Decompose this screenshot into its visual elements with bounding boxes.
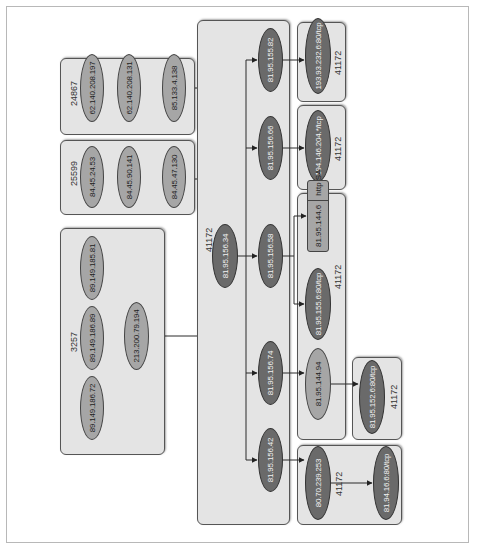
node-85-133-4-138[interactable]: 85.133.4.138 bbox=[162, 54, 186, 122]
node-81-95-152-6[interactable]: 81.95.152.6:80/tcp bbox=[359, 360, 385, 434]
node-81-95-156-58[interactable]: 81.95.156.58 bbox=[258, 224, 283, 288]
node-62-140-208-131[interactable]: 62.140.208.131 bbox=[117, 54, 141, 122]
as-label: 25599 bbox=[69, 161, 79, 186]
node-89-149-186-72[interactable]: 89.149.186.72 bbox=[80, 376, 104, 440]
node-flag: http SA bbox=[308, 165, 328, 200]
as-label: 3257 bbox=[69, 332, 79, 352]
node-213-200-79-194[interactable]: 213.200.79.194 bbox=[124, 302, 149, 370]
as-label: 41172 bbox=[334, 472, 344, 496]
node-81-95-155-82[interactable]: 81.95.155.82 bbox=[258, 28, 283, 92]
node-84-45-24-53[interactable]: 84.45.24.53 bbox=[80, 146, 104, 208]
as-label: 24867 bbox=[69, 81, 79, 106]
network-diagram: 24867 25599 3257 41172 41172 41172 41172… bbox=[0, 0, 477, 550]
node-81-95-156-66[interactable]: 81.95.156.66 bbox=[258, 116, 283, 180]
node-84-45-47-130[interactable]: 84.45.47.130 bbox=[162, 146, 186, 208]
node-81-95-155-6[interactable]: 81.95.155.6:80/tcp bbox=[305, 268, 331, 340]
as-label: 41172 bbox=[333, 137, 343, 161]
node-81-95-156-42[interactable]: 81.95.156.42 bbox=[258, 428, 283, 492]
node-193-93-232-6[interactable]: 193.93.232.6:80/tcp bbox=[305, 18, 331, 94]
as-group-3257: 3257 bbox=[60, 228, 165, 455]
node-81-94-16-6[interactable]: 81.94.16.6:80/tcp bbox=[373, 446, 399, 520]
node-84-45-90-141[interactable]: 84.45.90.141 bbox=[117, 146, 141, 208]
as-label: 41172 bbox=[333, 51, 343, 75]
node-80-70-239-253[interactable]: 80.70.239.253 bbox=[305, 446, 331, 520]
node-81-95-144-94[interactable]: 81.95.144.94 bbox=[305, 348, 331, 420]
node-81-95-144-6[interactable]: 81.95.144.6 http SA bbox=[307, 180, 329, 252]
node-89-149-186-89[interactable]: 89.149.186.89 bbox=[80, 306, 104, 370]
node-89-149-185-81[interactable]: 89.149.185.81 bbox=[80, 236, 104, 300]
as-label: 41172 bbox=[389, 385, 399, 409]
node-ip: 81.95.144.6 bbox=[308, 201, 328, 251]
node-81-95-156-34[interactable]: 81.95.156.34 bbox=[212, 224, 238, 288]
node-81-95-156-74[interactable]: 81.95.156.74 bbox=[258, 341, 283, 405]
node-62-140-208-197[interactable]: 62.140.208.197 bbox=[80, 54, 104, 122]
as-label: 41172 bbox=[333, 265, 343, 289]
